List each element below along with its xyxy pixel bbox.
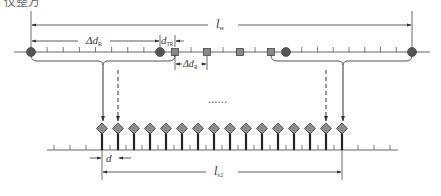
element-diamond	[145, 123, 156, 134]
virtual-element	[129, 123, 140, 150]
receiver-element	[156, 48, 165, 57]
element-diamond	[321, 123, 332, 134]
virtual-element	[145, 123, 156, 150]
brace-right	[271, 55, 412, 65]
virtual-element	[257, 123, 268, 150]
brace-left	[31, 55, 175, 65]
receiver-element	[282, 48, 291, 57]
receiver-element	[408, 48, 417, 57]
virtual-element	[97, 123, 108, 150]
virtual-element	[305, 123, 316, 150]
d-label: d	[106, 152, 112, 164]
virtual-element	[273, 123, 284, 150]
element-diamond	[177, 123, 188, 134]
element-diamond	[209, 123, 220, 134]
virtual-element	[209, 123, 220, 150]
element-diamond	[305, 123, 316, 134]
transmitter-element	[172, 49, 179, 56]
element-diamond	[161, 123, 172, 134]
element-diamond	[241, 123, 252, 134]
virtual-element	[289, 123, 300, 150]
delta-dr-bottom-label: ΔdR	[182, 58, 198, 70]
element-diamond	[113, 123, 124, 134]
virtual-element	[161, 123, 172, 150]
transmitter-element	[237, 49, 244, 56]
delta-dr-top-label: ΔdR	[85, 34, 102, 47]
bottom-axis-ticks	[54, 145, 390, 150]
top-axis-ticks	[47, 47, 396, 52]
virtual-element	[241, 123, 252, 150]
element-diamond	[193, 123, 204, 134]
array-diagram: lw ΔdR dTR ΔdR ...... d lv2	[0, 0, 441, 196]
transmitter-element	[204, 49, 211, 56]
virtual-element	[321, 123, 332, 150]
receiver-element	[27, 48, 36, 57]
element-diamond	[225, 123, 236, 134]
virtual-element	[337, 123, 348, 150]
virtual-element	[113, 123, 124, 150]
virtual-element	[225, 123, 236, 150]
lw-label: lw	[216, 17, 225, 32]
element-diamond	[257, 123, 268, 134]
transmitter-element	[268, 49, 275, 56]
element-diamond	[129, 123, 140, 134]
virtual-element	[193, 123, 204, 150]
element-diamond	[273, 123, 284, 134]
virtual-element	[177, 123, 188, 150]
element-diamond	[337, 123, 348, 134]
ellipsis: ......	[208, 94, 227, 105]
element-diamond	[97, 123, 108, 134]
dtr-label: dTR	[161, 34, 174, 47]
lv2-label: lv2	[214, 164, 223, 178]
element-diamond	[289, 123, 300, 134]
